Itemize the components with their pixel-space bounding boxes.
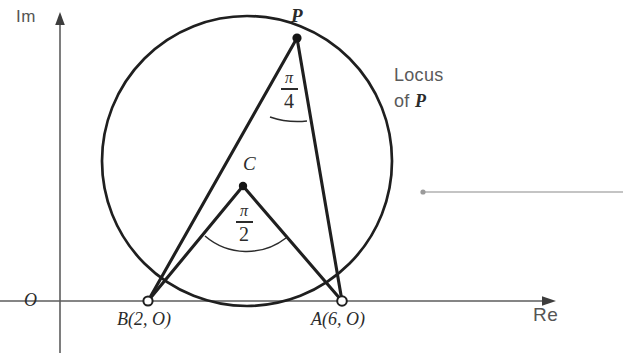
angle-arc-at-P [270, 117, 307, 122]
angle-denominator-P: 4 [277, 91, 301, 111]
locus-annotation-line1: Locus [394, 62, 444, 88]
real-axis [0, 296, 556, 306]
point-marker-C [239, 182, 247, 190]
locus-annotation-line2: of P [394, 88, 444, 114]
point-label-C: C [243, 154, 256, 173]
segment-BC [148, 186, 243, 301]
leader-line-dot [420, 189, 425, 194]
angle-numerator-C: π [232, 203, 256, 219]
figure-canvas: Im Re O P C B(2, O) A(6, O) π 4 π 2 Locu… [0, 0, 623, 353]
imaginary-axis-label: Im [16, 8, 36, 25]
angle-label-pi-over-4: π 4 [277, 70, 301, 111]
segment-BP [148, 38, 297, 301]
segment-AC [243, 186, 342, 301]
angle-numerator-P: π [277, 70, 301, 86]
segment-AP [297, 38, 342, 301]
point-marker-A [337, 296, 347, 306]
point-label-B: B(2, O) [117, 310, 171, 328]
point-label-P: P [291, 6, 303, 25]
imaginary-axis-arrow [55, 12, 65, 25]
angle-label-pi-over-2: π 2 [232, 203, 256, 244]
locus-annotation-point: P [415, 91, 426, 111]
point-marker-P [292, 33, 301, 42]
geometry-diagram-svg [0, 0, 623, 353]
point-marker-B [143, 296, 152, 305]
origin-label: O [24, 291, 37, 309]
imaginary-axis [55, 12, 65, 353]
point-label-A: A(6, O) [311, 310, 365, 328]
locus-annotation-prefix: of [394, 91, 415, 111]
leader-line [420, 189, 623, 194]
locus-annotation: Locus of P [394, 62, 444, 114]
angle-denominator-C: 2 [232, 224, 256, 244]
real-axis-label: Re [533, 305, 558, 324]
